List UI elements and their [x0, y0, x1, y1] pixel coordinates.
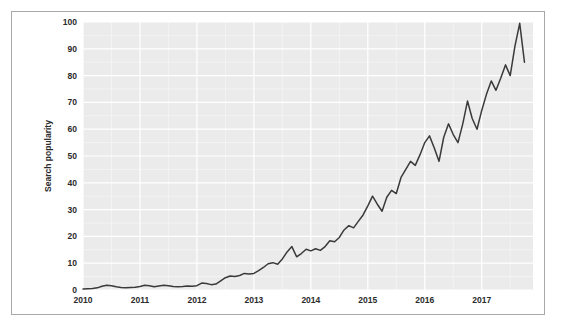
- figure-container: 0102030405060708090100 20102011201220132…: [0, 0, 561, 327]
- y-axis-tick-label: 90: [68, 44, 78, 54]
- figure-frame-border: 0102030405060708090100 20102011201220132…: [11, 11, 545, 315]
- y-axis-tick-label: 80: [68, 71, 78, 81]
- y-axis-tick-label: 10: [68, 258, 78, 268]
- x-axis-tick-labels: 20102011201220132014201520162017: [74, 295, 492, 305]
- y-axis-tick-label: 60: [68, 124, 78, 134]
- x-axis-tick-label: 2013: [244, 295, 263, 305]
- y-axis-tick-label: 70: [68, 97, 78, 107]
- search-popularity-line-chart: 0102030405060708090100 20102011201220132…: [12, 12, 544, 314]
- y-axis-tick-label: 20: [68, 231, 78, 241]
- y-axis-tick-label: 40: [68, 178, 78, 188]
- x-axis-tick-label: 2012: [187, 295, 206, 305]
- x-axis-tick-label: 2017: [472, 295, 491, 305]
- x-axis-tick-label: 2014: [301, 295, 320, 305]
- y-axis-tick-label: 0: [72, 285, 77, 295]
- y-axis-tick-label: 30: [68, 205, 78, 215]
- y-axis-title: Search popularity: [43, 120, 53, 192]
- x-axis-tick-label: 2011: [131, 295, 150, 305]
- x-axis-tick-label: 2016: [415, 295, 434, 305]
- x-axis-tick-label: 2015: [358, 295, 377, 305]
- y-axis-title-text: Search popularity: [43, 120, 53, 192]
- y-axis-tick-label: 100: [63, 17, 77, 27]
- y-axis-tick-labels: 0102030405060708090100: [63, 17, 77, 295]
- x-axis-tick-label: 2010: [74, 295, 93, 305]
- y-axis-tick-label: 50: [68, 151, 78, 161]
